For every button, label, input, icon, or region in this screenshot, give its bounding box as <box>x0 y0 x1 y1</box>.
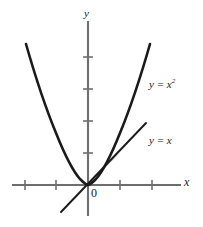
math-figure: x y 0 y = x2 y = x <box>0 0 203 227</box>
y-axis-label: y <box>84 8 89 19</box>
plot-canvas <box>0 0 203 227</box>
curve-label-parabola-exponent: 2 <box>172 77 176 85</box>
x-axis-label: x <box>184 176 189 188</box>
curve-line <box>61 123 146 212</box>
curve-label-parabola: y = x2 <box>149 78 175 90</box>
curve-label-parabola-text: y = x <box>149 78 172 90</box>
curve-label-line: y = x <box>149 135 172 146</box>
origin-label: 0 <box>91 187 97 199</box>
